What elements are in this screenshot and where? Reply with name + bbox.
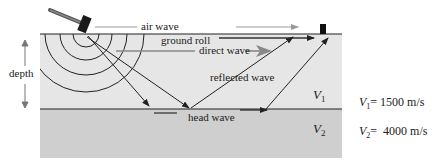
air-wave-label: air wave (141, 21, 179, 32)
reflected-wave-label: reflected wave (210, 72, 274, 83)
layer-v1-subscript: 1 (321, 94, 326, 104)
seismic-refraction-diagram (0, 0, 445, 166)
hammer-icon (50, 10, 92, 33)
layer-v2-symbol: V (313, 121, 321, 136)
direct-wave-label: direct wave (199, 45, 250, 56)
geophone-icon (320, 24, 326, 34)
layer-v2-subscript: 2 (321, 128, 326, 138)
velocity-v1-value: = 1500 m/s (370, 95, 424, 109)
velocity-v2-value: = 4000 m/s (370, 124, 427, 138)
depth-label: depth (9, 68, 33, 79)
layer-v1-label: V1 (313, 88, 325, 104)
head-wave-label: head wave (188, 112, 235, 123)
layer-v2-label: V2 (313, 122, 325, 138)
velocity-v1: V1= 1500 m/s (359, 96, 424, 111)
layer-v1-symbol: V (313, 87, 321, 102)
velocity-v2: V2= 4000 m/s (359, 125, 427, 140)
